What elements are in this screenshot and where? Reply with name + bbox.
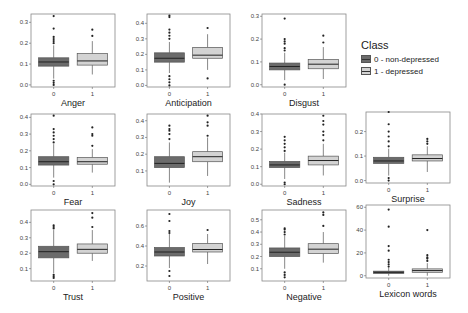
box xyxy=(77,158,107,165)
y-tick-label: 0.4 xyxy=(136,118,145,124)
legend-item-non-depressed: 0 - non-depressed xyxy=(361,53,439,65)
x-tick-label: 1 xyxy=(206,91,210,97)
x-tick-label: 0 xyxy=(387,187,391,193)
panel-disgust: 0.00.10.20.301Disgust xyxy=(251,13,346,108)
x-tick-label: 1 xyxy=(91,285,95,291)
legend: Class 0 - non-depressed 1 - depressed xyxy=(361,39,439,77)
x-tick-label: 1 xyxy=(426,282,430,288)
y-tick-label: 0.2 xyxy=(251,146,260,152)
panel-negative: 0.10.20.30.40.501Negative xyxy=(251,210,346,302)
y-tick-label: 0.4 xyxy=(136,20,145,26)
box xyxy=(77,54,107,65)
y-tick-label: 0.3 xyxy=(136,134,145,140)
y-tick-label: 0.1 xyxy=(251,164,260,170)
box xyxy=(154,53,184,62)
panel-title: Trust xyxy=(63,292,84,302)
panel-title: Disgust xyxy=(289,98,320,108)
y-tick-label: 0.4 xyxy=(20,219,29,225)
y-tick-label: 0.3 xyxy=(251,241,260,247)
y-tick-label: 0.2 xyxy=(355,129,364,135)
y-tick-label: 0.4 xyxy=(20,114,29,120)
panel-positive: 0.20.40.601Positive xyxy=(136,210,230,302)
panel-anticipation: 0.00.10.20.30.401Anticipation xyxy=(136,14,230,108)
x-tick-label: 0 xyxy=(52,190,56,196)
y-tick-label: 60 xyxy=(356,204,363,210)
y-tick-label: 0.0 xyxy=(251,181,260,187)
panel-title: Surprise xyxy=(391,194,425,204)
legend-key-light xyxy=(361,67,371,75)
x-tick-label: 0 xyxy=(387,282,391,288)
box xyxy=(374,157,404,163)
panel-title: Joy xyxy=(181,197,196,207)
panel-title: Sadness xyxy=(286,197,322,207)
box xyxy=(77,244,107,253)
panel-title: Anger xyxy=(61,98,85,108)
y-tick-label: 0.2 xyxy=(136,263,145,269)
box xyxy=(154,157,184,168)
y-tick-label: 0.2 xyxy=(20,250,29,256)
y-tick-label: 0.1 xyxy=(20,266,29,272)
box xyxy=(193,244,223,253)
legend-label: 1 - depressed xyxy=(374,67,423,76)
x-tick-label: 0 xyxy=(52,285,56,291)
y-tick-label: 0.0 xyxy=(355,178,364,184)
panel-surprise: 0.00.10.201Surprise xyxy=(355,111,450,204)
x-tick-label: 1 xyxy=(206,285,210,291)
y-tick-label: 0.6 xyxy=(136,223,145,229)
y-tick-label: 0.2 xyxy=(20,148,29,154)
y-tick-label: 0.1 xyxy=(20,165,29,171)
y-tick-label: 0.1 xyxy=(251,266,260,272)
y-tick-label: 0.3 xyxy=(20,19,29,25)
panel-title: Lexicon words xyxy=(379,289,437,299)
y-tick-label: 0.2 xyxy=(251,254,260,260)
y-tick-label: 0.0 xyxy=(136,82,145,88)
x-tick-label: 0 xyxy=(168,190,172,196)
panel-anger: 0.00.10.20.301Anger xyxy=(20,14,115,108)
box xyxy=(308,244,338,254)
x-tick-label: 0 xyxy=(168,285,172,291)
panel-title: Negative xyxy=(286,292,322,302)
y-tick-label: 0.4 xyxy=(251,111,260,117)
y-tick-label: 0.2 xyxy=(136,51,145,57)
panel-title: Positive xyxy=(173,292,205,302)
y-tick-label: 0.2 xyxy=(20,40,29,46)
x-tick-label: 1 xyxy=(426,187,430,193)
y-tick-label: 0.4 xyxy=(251,229,260,235)
y-tick-label: 0.3 xyxy=(251,13,260,19)
panel-joy: 0.10.20.30.401Joy xyxy=(136,114,230,207)
panel-fear: 0.00.10.20.30.401Fear xyxy=(20,114,115,207)
x-tick-label: 1 xyxy=(206,190,210,196)
y-tick-label: 0 xyxy=(360,273,364,279)
y-tick-label: 0.5 xyxy=(251,217,260,223)
y-tick-label: 0.1 xyxy=(136,67,145,73)
box xyxy=(193,47,223,58)
x-tick-label: 0 xyxy=(52,91,56,97)
legend-title: Class xyxy=(361,39,439,51)
y-tick-label: 0.1 xyxy=(355,153,364,159)
x-tick-label: 0 xyxy=(168,91,172,97)
y-tick-label: 0.1 xyxy=(251,59,260,65)
y-tick-label: 0.3 xyxy=(20,131,29,137)
y-tick-label: 0.3 xyxy=(251,129,260,135)
y-tick-label: 0.0 xyxy=(251,82,260,88)
box xyxy=(39,157,69,165)
panel-lexicon-words: 020406001Lexicon words xyxy=(356,204,450,299)
panel-sadness: 0.00.10.20.30.401Sadness xyxy=(251,111,346,207)
y-tick-label: 0.3 xyxy=(136,36,145,42)
legend-item-depressed: 1 - depressed xyxy=(361,65,439,77)
x-tick-label: 1 xyxy=(322,91,326,97)
panel-title: Anticipation xyxy=(165,98,212,108)
x-tick-label: 0 xyxy=(283,285,287,291)
y-tick-label: 0.4 xyxy=(136,243,145,249)
y-tick-label: 0.1 xyxy=(20,61,29,67)
y-tick-label: 0.2 xyxy=(136,151,145,157)
x-tick-label: 1 xyxy=(322,285,326,291)
y-tick-label: 0.2 xyxy=(251,36,260,42)
legend-label: 0 - non-depressed xyxy=(374,55,439,64)
y-tick-label: 20 xyxy=(356,250,363,256)
y-tick-label: 0.3 xyxy=(20,235,29,241)
y-tick-label: 0.0 xyxy=(20,181,29,187)
legend-key-dark xyxy=(361,55,371,63)
panel-title: Fear xyxy=(64,197,83,207)
panel-trust: 0.10.20.30.401Trust xyxy=(20,210,115,302)
